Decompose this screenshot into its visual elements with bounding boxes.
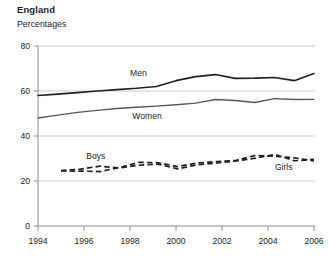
chart-container: England Percentages 80 60 40 20 0 (0, 0, 329, 259)
y-axis-tick-labels: 80 60 40 20 0 (20, 41, 30, 231)
series-label-girls: Girls (275, 162, 293, 172)
series-label-boys: Boys (86, 151, 105, 161)
gridlines (38, 46, 315, 226)
xtick-label-2006: 2006 (304, 236, 323, 246)
data-series-group (38, 73, 314, 171)
series-line-women (38, 99, 314, 118)
y-axis-ticks (34, 46, 38, 226)
series-line-men (38, 73, 314, 95)
ytick-label-60: 60 (20, 86, 30, 96)
ytick-label-40: 40 (20, 131, 30, 141)
ytick-label-0: 0 (25, 221, 30, 231)
line-chart-plot: 80 60 40 20 0 1994 1996 1998 2000 2002 2… (0, 0, 329, 259)
ytick-label-80: 80 (20, 41, 30, 51)
xtick-label-1996: 1996 (74, 236, 93, 246)
xtick-label-2000: 2000 (166, 236, 185, 246)
x-axis-tick-labels: 1994 1996 1998 2000 2002 2004 2006 (28, 236, 323, 246)
xtick-label-1998: 1998 (120, 236, 139, 246)
series-label-men: Men (130, 68, 147, 78)
xtick-label-1994: 1994 (28, 236, 47, 246)
series-label-women: Women (132, 111, 162, 121)
x-axis-ticks (38, 226, 314, 231)
ytick-label-20: 20 (20, 176, 30, 186)
xtick-label-2004: 2004 (258, 236, 277, 246)
xtick-label-2002: 2002 (212, 236, 231, 246)
